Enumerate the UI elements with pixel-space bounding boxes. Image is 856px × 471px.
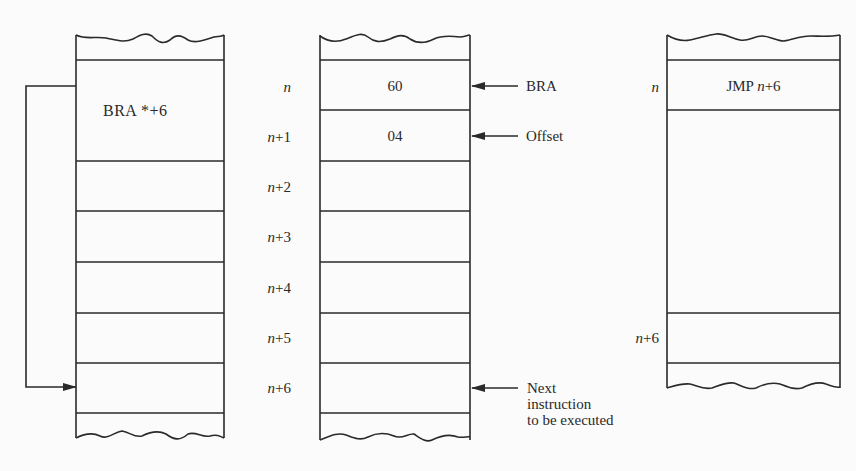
left-bottom-torn-edge: [76, 431, 224, 439]
right-top-torn-edge: [667, 34, 840, 41]
right-bottom-torn-edge: [667, 383, 840, 389]
middle-bottom-torn-edge: [320, 433, 470, 440]
right-instruction-label: JMP n+6: [667, 77, 840, 95]
cell-value-n-plus-1: 04: [320, 127, 470, 145]
right-address-label-n: n: [607, 78, 659, 96]
address-label-n-plus-4: n+4: [241, 279, 291, 297]
middle-top-torn-edge: [320, 34, 470, 42]
address-label-n-plus-5: n+5: [241, 329, 291, 347]
address-label-n-plus-2: n+2: [241, 178, 291, 196]
middle-memory-column: [320, 34, 518, 441]
left-top-torn-edge: [76, 34, 224, 42]
next-instruction-label: Next instruction to be executed: [527, 380, 614, 428]
address-label-n: n: [241, 78, 291, 96]
left-opcode: BRA: [103, 102, 137, 119]
offset-pointer-label: Offset: [526, 127, 563, 145]
address-label-n-plus-1: n+1: [241, 128, 291, 146]
right-address-label-n-plus-6: n+6: [607, 329, 659, 347]
left-operand: *+6: [141, 102, 168, 119]
memory-diagram: [0, 0, 856, 471]
bra-pointer-label: BRA: [526, 77, 557, 95]
left-memory-column: [26, 34, 224, 439]
address-label-n-plus-3: n+3: [241, 228, 291, 246]
left-instruction-label: BRA *+6: [103, 102, 168, 120]
branch-loop-arrow: [26, 86, 76, 387]
cell-value-n: 60: [320, 77, 470, 95]
address-label-n-plus-6: n+6: [241, 379, 291, 397]
